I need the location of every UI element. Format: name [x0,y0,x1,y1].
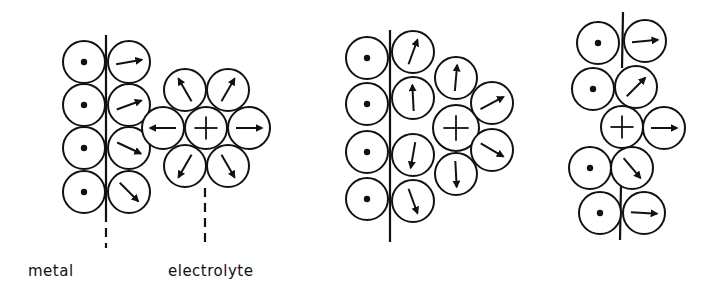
solvent-dipole [624,20,666,62]
dot-icon [364,196,370,202]
metal-atom [63,41,105,83]
solvent-dipole [392,180,434,222]
dot-icon [364,55,370,61]
panel-outer-helmholtz [63,35,270,248]
dot-icon [597,210,603,216]
solvent-dipole [207,69,249,111]
solvent-dipole [392,31,434,73]
solvent-dipole [392,134,434,176]
panel-specific-adsorption [569,12,685,240]
solvent-dipole [164,69,206,111]
solvent-dipole [108,171,150,213]
dot-icon [364,149,370,155]
solvent-dipole [228,107,270,149]
solvent-dipole [623,192,665,234]
dot-icon [364,101,370,107]
metal-atom [572,68,614,110]
dot-icon [81,59,87,65]
metal-atom [569,147,611,189]
metal-atom [577,22,619,64]
arrow-icon [455,161,456,187]
dot-icon [587,165,593,171]
electrolyte-label: electrolyte [168,262,253,280]
metal-atom [579,192,621,234]
panel-partial-solvation [346,30,513,242]
arrow-icon [412,85,413,111]
metal-surface-line-top [622,12,623,68]
dot-icon [81,145,87,151]
solvent-dipole [471,82,513,124]
metal-label: metal [28,262,74,280]
dot-icon [81,102,87,108]
solvent-dipole [471,129,513,171]
metal-atom [63,84,105,126]
solvent-dipole [108,41,150,83]
solvent-dipole [435,57,477,99]
metal-atom [346,37,388,79]
solvent-dipole [142,107,184,149]
metal-atom [346,131,388,173]
solvent-dipole [435,153,477,195]
dot-icon [81,189,87,195]
solvent-dipole [611,147,653,189]
metal-atom [346,83,388,125]
arrow-icon [631,212,657,213]
solvent-dipole [207,145,249,187]
solvent-dipole [643,107,685,149]
dot-icon [595,40,601,46]
metal-atom [346,178,388,220]
solvent-dipole [615,66,657,108]
solvent-dipole [164,145,206,187]
cation [601,106,643,148]
solvent-dipole [392,77,434,119]
cation [185,107,227,149]
metal-atom [63,171,105,213]
metal-atom [63,127,105,169]
dot-icon [590,86,596,92]
electric-double-layer-diagram [0,0,715,305]
